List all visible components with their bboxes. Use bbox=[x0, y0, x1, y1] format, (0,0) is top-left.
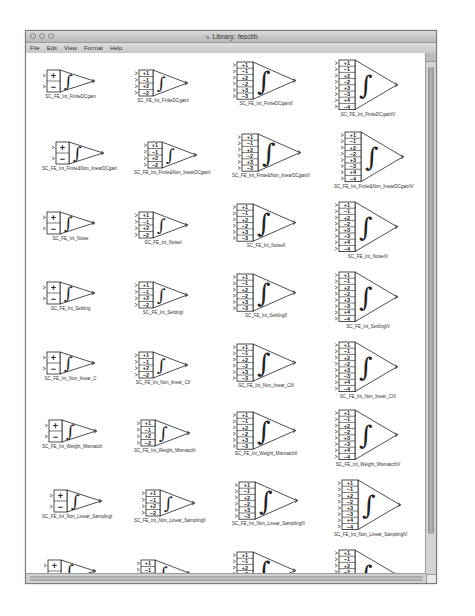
scroll-up-arrow-icon[interactable] bbox=[426, 53, 436, 62]
integral-sign-icon: ∫ bbox=[159, 423, 168, 443]
title-bar[interactable]: ↘Library: fesclib bbox=[26, 31, 436, 43]
library-block[interactable]: +1−1+2−2∫SC_FE_Int_FiniteDCgainI bbox=[134, 69, 192, 103]
library-block[interactable]: +1−1+2−2+3−3+4−4∫SC_FE_Int_Finite&Non_li… bbox=[334, 131, 413, 189]
input-port-label: +1 bbox=[344, 202, 350, 208]
integral-sign-icon: ∫ bbox=[71, 491, 80, 511]
resize-grip-icon[interactable] bbox=[426, 574, 436, 583]
integrator-block-icon: +1−1+2−2+3−3+4−4∫ bbox=[334, 409, 402, 461]
library-block[interactable]: +1−1+2−2+3−3+4−4∫SC_FE_Integrator_All_Ef… bbox=[334, 549, 402, 574]
horizontal-scroll-thumb[interactable] bbox=[29, 576, 423, 581]
input-port-label: +3 bbox=[344, 85, 350, 91]
block-label: SC_FE_Int_NoiseII bbox=[247, 243, 285, 248]
input-port-label: +3 bbox=[242, 229, 248, 235]
library-block[interactable]: +−∫SC_FE_Int_Noise bbox=[42, 211, 99, 241]
vertical-scroll-thumb[interactable] bbox=[428, 67, 434, 534]
input-port-label: + bbox=[52, 561, 57, 571]
block-label: SC_FE_Int_Finite&Non_linearDCgainIV bbox=[334, 184, 413, 189]
library-block[interactable]: +1−1+2−2+3−3∫SC_FE_Int_Non_linear_CIII bbox=[232, 343, 300, 388]
integral-sign-icon: ∫ bbox=[359, 352, 373, 382]
input-port-label: +3 bbox=[242, 437, 248, 443]
integrator-block-icon: +1−1+2−2+3−3∫ bbox=[232, 551, 300, 574]
window-title: ↘Library: fesclib bbox=[26, 31, 436, 42]
block-label: SC_FE_Int_Non_linear_CIII bbox=[238, 383, 294, 388]
library-block[interactable]: +1−1+2−2+3−3+4−4∫SC_FE_Int_SettlingIV bbox=[334, 271, 402, 329]
input-port-label: − bbox=[57, 502, 62, 512]
input-port-label: +1 bbox=[143, 212, 149, 218]
input-port-label: +4 bbox=[344, 379, 351, 385]
library-block[interactable]: +−∫SC_FE_Int_Non_linear_C bbox=[42, 351, 99, 381]
integrator-block-icon: +1−1+2−2+3−3∫ bbox=[232, 203, 300, 242]
input-port-label: +1 bbox=[150, 490, 156, 496]
integrator-block-icon: +−∫ bbox=[43, 559, 100, 574]
input-port-label: −3 bbox=[350, 163, 356, 169]
integral-sign-icon: ∫ bbox=[257, 66, 271, 96]
input-port-label: −2 bbox=[150, 510, 156, 516]
input-port-label: +3 bbox=[242, 299, 248, 305]
library-block[interactable]: +1−1+2−2+3−3∫SC_FE_Int_Weight_MismatchII bbox=[232, 411, 300, 456]
menu-help[interactable]: Help bbox=[110, 43, 122, 53]
library-block[interactable]: +1−1+2−2+3−3+4−4∫SC_FE_Int_FiniteDCgainI… bbox=[334, 59, 402, 117]
block-label: SC_FE_Int_SettlingII bbox=[245, 313, 287, 318]
integrator-block-icon: +−∫ bbox=[42, 351, 99, 375]
integral-sign-icon: ∫ bbox=[64, 71, 73, 91]
library-block[interactable]: +1−1+2−2∫SC_FE_Int_Non_Linear_SamplingII bbox=[134, 489, 205, 523]
library-block[interactable]: +1−1+2−2∫SC_FE_Int_NoiseI bbox=[134, 211, 192, 245]
library-block[interactable]: +1−1+2−2+3−3+4−4∫SC_FE_Int_NoiseIV bbox=[334, 201, 402, 259]
input-port-label: −1 bbox=[242, 280, 248, 286]
input-port-label: +3 bbox=[242, 369, 248, 375]
library-block[interactable]: +−∫SC_FE_Int_Non_Linear_SamplingI bbox=[42, 489, 112, 519]
menu-view[interactable]: View bbox=[64, 43, 77, 53]
input-port-label: +2 bbox=[344, 423, 350, 429]
library-block[interactable]: +1−1+2−2+3−3+4−4∫SC_FE_Int_Non_linear_CI… bbox=[334, 341, 402, 399]
library-block[interactable]: +1−1+2−2∫SC_FE_Int_Finite&Non_linearDCga… bbox=[134, 141, 210, 175]
input-port-label: +2 bbox=[145, 433, 151, 439]
library-block[interactable]: +−∫SC_FE_Int_Weight_Mismatch bbox=[42, 419, 102, 449]
input-port-label: +4 bbox=[350, 169, 357, 175]
library-block[interactable]: +1−1+2−2∫SC_FE_Int_Non_linear_CII bbox=[134, 351, 192, 385]
block-label: SC_FE_Int_SettlingIV bbox=[346, 324, 390, 329]
library-block[interactable]: +−∫SC_FE_Int_Settling bbox=[42, 281, 99, 311]
library-block[interactable]: +1−1+2−2+3−3∫SC_FE_Integrator_All_Effect… bbox=[232, 551, 300, 574]
menu-edit[interactable]: Edit bbox=[47, 43, 57, 53]
integral-sign-icon: ∫ bbox=[257, 556, 271, 574]
input-port-label: −3 bbox=[344, 233, 350, 239]
library-block[interactable]: +1−1+2−2+3−3∫SC_FE_Int_NoiseII bbox=[232, 203, 300, 248]
library-canvas[interactable]: +−∫SC_FE_Int_FiniteDCgain+1−1+2−2∫SC_FE_… bbox=[26, 53, 426, 574]
integrator-block-icon: +−∫ bbox=[42, 281, 99, 305]
integrator-block-icon: +1−1+2−2∫ bbox=[141, 489, 199, 517]
library-block[interactable]: +1−1+2−2+3−3∫SC_FE_Int_FiniteDCgainII bbox=[232, 61, 300, 106]
integrator-block-icon: +−∫ bbox=[42, 69, 99, 93]
library-block[interactable]: +1−1+2−2+3−3∫SC_FE_Int_Finite&Non_linear… bbox=[232, 133, 310, 178]
block-label: SC_FE_Int_Weight_Mismatch bbox=[42, 444, 102, 449]
input-port-label: +3 bbox=[344, 367, 350, 373]
library-block[interactable]: +1−1+2−2+3−3∫SC_FE_Int_SettlingII bbox=[232, 273, 300, 318]
library-block[interactable]: +−∫SC_FE_Int_Finite&Non_linearDCgain bbox=[42, 141, 117, 171]
input-port-label: −3 bbox=[242, 93, 248, 99]
vertical-scrollbar[interactable] bbox=[425, 53, 436, 574]
input-port-label: +1 bbox=[152, 142, 158, 148]
integrator-block-icon: +1−1+2−2∫ bbox=[134, 351, 192, 379]
integrator-block-icon: +−∫ bbox=[49, 489, 106, 513]
menu-format[interactable]: Format bbox=[84, 43, 103, 53]
library-block[interactable]: +1−1+2−2∫SC_FE_Int_Weight_MismatchI bbox=[134, 419, 195, 453]
integral-sign-icon: ∫ bbox=[259, 486, 273, 516]
input-port-label: −1 bbox=[344, 416, 350, 422]
block-label: SC_FE_Int_NoiseIV bbox=[348, 254, 388, 259]
horizontal-scrollbar[interactable] bbox=[26, 573, 426, 583]
input-port-label: −2 bbox=[344, 221, 350, 227]
library-block[interactable]: +1−1+2−2+3−3+4−4∫SC_FE_Int_Weight_Mismat… bbox=[334, 409, 402, 467]
input-port-label: +1 bbox=[143, 70, 149, 76]
integrator-block-icon: +1−1+2−2+3−3∫ bbox=[234, 481, 302, 520]
library-block[interactable]: +−∫SC_FE_Int_FiniteDCgain bbox=[42, 69, 99, 99]
library-block[interactable]: +1−1+2−2+3−3∫SC_FE_Int_Non_Linear_Sampli… bbox=[232, 481, 305, 526]
input-port-label: −3 bbox=[242, 305, 248, 311]
library-block[interactable]: +1−1+2−2∫SC_FE_Integrator_All_EffectsI bbox=[134, 559, 195, 574]
library-block[interactable]: +1−1+2−2+3−3+4−4∫SC_FE_Int_Non_Linear_Sa… bbox=[334, 479, 407, 537]
menu-file[interactable]: File bbox=[30, 43, 40, 53]
library-block[interactable]: +−∫SC_FE_Integrator_All_Effects bbox=[42, 559, 102, 574]
block-label: SC_FE_Int_NoiseI bbox=[144, 240, 181, 245]
library-block[interactable]: +1−1+2−2∫SC_FE_Int_SettlingI bbox=[134, 281, 192, 315]
input-port-label: + bbox=[51, 283, 56, 293]
library-window: ↘Library: fesclib File Edit View Format … bbox=[25, 30, 437, 584]
input-port-label: +1 bbox=[344, 272, 350, 278]
